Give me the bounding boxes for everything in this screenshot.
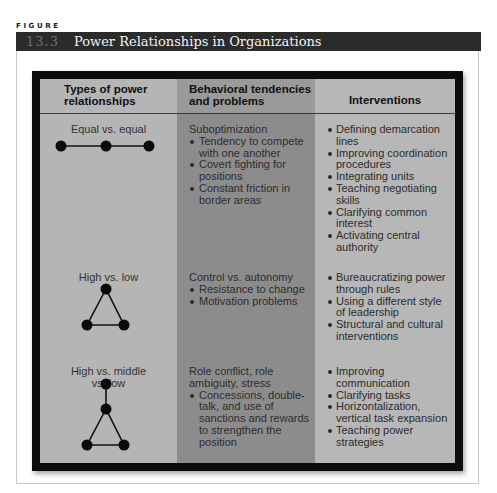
figure-title: Power Relationships in Organizations xyxy=(74,34,322,49)
header-interventions: Interventions xyxy=(315,79,455,114)
list-item: Clarifying common interest xyxy=(327,207,453,231)
list-item: Improving communication xyxy=(327,366,453,390)
column-types: Types of power relationships Equal vs. e… xyxy=(40,79,177,463)
list-item: Structural and cultural interventions xyxy=(327,319,453,343)
column-interventions: Interventions Defining demarcation lines… xyxy=(315,79,455,463)
interventions-row-2: Bureaucratizing power through rules Usin… xyxy=(327,272,453,343)
header-tendencies: Behavioral tendencies and problems xyxy=(177,79,315,114)
power-diagrams xyxy=(40,79,177,463)
list-item: Using a different style of leadership xyxy=(327,296,453,320)
list-item: Teaching negotiating skills xyxy=(327,183,453,207)
column-tendencies: Behavioral tendencies and problems Subop… xyxy=(177,79,315,463)
figure-label: FIGURE xyxy=(16,22,61,30)
list-item: Horizontalization, vertical task expansi… xyxy=(327,401,453,425)
list-item: Teaching power strategies xyxy=(327,425,453,449)
list-item: Improving coordination procedures xyxy=(327,148,453,172)
tendencies-row-1: Suboptimization Tendency to compete with… xyxy=(189,124,311,207)
hierarchy-triangle-nodes-icon xyxy=(82,379,130,451)
tendencies-row-2: Control vs. autonomy Resistance to chang… xyxy=(189,272,311,307)
interventions-row-1: Defining demarcation lines Improving coo… xyxy=(327,124,453,254)
list-item: Tendency to compete with one another xyxy=(189,136,311,160)
figure-title-bar: 13.3 Power Relationships in Organization… xyxy=(16,32,481,51)
triangle-nodes-icon xyxy=(82,284,130,331)
list-item: Concessions, double-talk, and use of san… xyxy=(189,390,311,449)
tendencies-row-3: Role conflict, role ambiguity, stress Co… xyxy=(189,366,311,449)
three-nodes-in-line-icon xyxy=(56,141,155,152)
list-item: Bureaucratizing power through rules xyxy=(327,272,453,296)
power-relationships-table: Types of power relationships Equal vs. e… xyxy=(32,71,463,471)
tendency-title: Role conflict, role ambiguity, stress xyxy=(189,366,311,390)
list-item: Defining demarcation lines xyxy=(327,124,453,148)
list-item: Motivation problems xyxy=(189,296,311,308)
list-item: Constant friction in border areas xyxy=(189,183,311,207)
figure-number: 13.3 xyxy=(26,34,74,49)
list-item: Covert fighting for positions xyxy=(189,159,311,183)
list-item: Activating central authority xyxy=(327,230,453,254)
interventions-row-3: Improving communication Clarifying tasks… xyxy=(327,366,453,449)
list-item: Resistance to change xyxy=(189,284,311,296)
